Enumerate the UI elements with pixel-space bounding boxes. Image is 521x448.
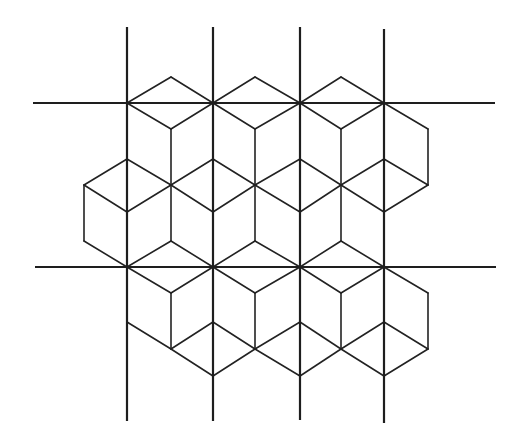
tile-edge [213,322,255,349]
tile-edge [255,103,300,129]
rectangular-lattice-overlay [33,27,496,423]
tile-edge [127,159,171,185]
tile-edge [213,77,255,103]
tile-edge [171,185,213,212]
tile-edge [213,185,255,212]
tile-edge [384,159,428,185]
tile-edge [300,241,341,267]
tile-edge [255,349,300,376]
tile-edge [341,77,384,103]
tile-edge [171,241,213,267]
tile-edge [127,322,171,349]
tile-edge [127,103,171,129]
tile-edge [341,241,384,267]
tile-edge [171,349,213,376]
tile-edge [84,241,127,267]
tile-edge [213,349,255,376]
tile-edge [300,103,341,129]
tile-edge [213,241,255,267]
tile-edge [213,159,255,185]
cube-tiling-pattern [84,77,428,376]
tile-edge [127,185,171,212]
tile-edge [213,267,255,293]
tile-edge [127,77,171,103]
tile-edge [255,159,300,185]
tile-edge [341,349,384,376]
tile-edge [300,267,341,293]
tile-edge [171,267,213,293]
tile-edge [171,103,213,129]
tile-edge [255,322,300,349]
tile-edge [300,349,341,376]
tile-edge [255,267,300,293]
tile-edge [341,159,384,185]
tile-edge [300,159,341,185]
tile-edge [84,185,127,212]
tile-edge [384,349,428,376]
tile-edge [300,77,341,103]
tile-edge [300,185,341,212]
tiling-diagram [0,0,521,448]
tile-edge [341,185,384,212]
tile-edge [255,77,300,103]
tile-edge [384,322,428,349]
tile-edge [171,322,213,349]
tile-edge [384,103,428,129]
tile-edge [255,241,300,267]
tile-edge [171,77,213,103]
tile-edge [127,267,171,293]
tile-edge [384,267,428,293]
tile-edge [341,322,384,349]
tile-edge [300,322,341,349]
tile-edge [127,241,171,267]
tile-edge [213,103,255,129]
tile-edge [171,159,213,185]
tile-edge [84,159,127,185]
tile-edge [341,267,384,293]
tile-edge [255,185,300,212]
tile-edge [384,185,428,212]
tile-edge [341,103,384,129]
